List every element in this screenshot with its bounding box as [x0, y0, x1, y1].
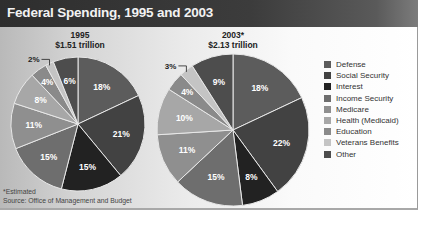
legend-swatch: [324, 72, 331, 79]
legend-label: Veterans Benefits: [336, 138, 399, 147]
legend-label: Other: [336, 150, 356, 159]
legend-item: Other: [324, 149, 399, 160]
slice-label: 11%: [26, 120, 43, 130]
slice-label: 11%: [179, 145, 196, 155]
legend-item: Medicare: [324, 104, 399, 115]
legend-swatch: [324, 139, 331, 146]
legend: DefenseSocial SecurityInterestIncome Sec…: [324, 59, 399, 160]
legend-swatch: [324, 128, 331, 135]
legend-label: Social Security: [336, 71, 389, 80]
slice-label: 4%: [181, 87, 194, 97]
legend-label: Defense: [336, 60, 366, 69]
slice-label: 8%: [245, 172, 258, 182]
legend-label: Education: [336, 127, 372, 136]
legend-item: Interest: [324, 81, 399, 92]
slice-label: 2%: [28, 55, 40, 64]
legend-item: Education: [324, 126, 399, 137]
slice-label: 8%: [35, 95, 48, 105]
pie-2003: 18%22%8%15%11%10%4%3%9%: [157, 54, 309, 206]
legend-swatch: [324, 106, 331, 113]
legend-swatch: [324, 95, 331, 102]
legend-swatch: [324, 83, 331, 90]
legend-swatch: [324, 61, 331, 68]
legend-label: Income Security: [336, 94, 393, 103]
slice-label: 22%: [273, 138, 290, 148]
legend-item: Income Security: [324, 93, 399, 104]
slice-label: 3%: [165, 62, 177, 71]
slice-label: 21%: [113, 129, 130, 139]
slice-label: 10%: [176, 113, 193, 123]
legend-item: Veterans Benefits: [324, 137, 399, 148]
slice-label: 18%: [93, 82, 110, 92]
legend-label: Health (Medicaid): [336, 116, 399, 125]
legend-label: Medicare: [336, 105, 369, 114]
pie-1995: 18%21%15%15%11%8%4%2%6%: [11, 55, 145, 191]
slice-label: 4%: [41, 77, 54, 87]
legend-swatch: [324, 151, 331, 158]
slice-label: 6%: [64, 76, 77, 86]
slice-label: 15%: [207, 172, 224, 182]
footnote: *Estimated: [3, 188, 36, 195]
legend-item: Social Security: [324, 70, 399, 81]
source-note: Source: Office of Management and Budget: [3, 197, 132, 204]
legend-swatch: [324, 117, 331, 124]
legend-item: Defense: [324, 59, 399, 70]
slice-label: 15%: [40, 152, 57, 162]
legend-item: Health (Medicaid): [324, 115, 399, 126]
slice-label: 18%: [251, 83, 268, 93]
slice-label: 15%: [79, 162, 96, 172]
slice-label: 9%: [213, 77, 226, 87]
legend-label: Interest: [336, 82, 363, 91]
